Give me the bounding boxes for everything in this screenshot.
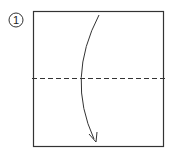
origami-diagram (0, 0, 175, 151)
step-number: 1 (9, 13, 23, 27)
